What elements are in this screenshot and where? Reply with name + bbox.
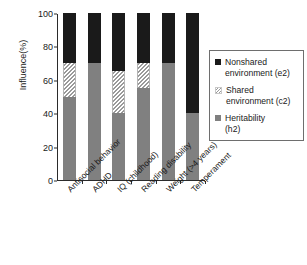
bar-segment-e2 — [88, 13, 101, 63]
legend-item-shared: Shared environment (c2) — [215, 85, 299, 106]
legend-line-2: environment (e2) — [225, 68, 290, 78]
y-tick-label: 40 — [43, 109, 53, 119]
bar-segment-c2 — [137, 63, 150, 88]
legend: Nonshared environment (e2) Shared enviro… — [209, 50, 304, 141]
legend-line-2: (h2) — [225, 124, 240, 134]
y-axis-line — [57, 14, 58, 181]
gray-square-icon — [215, 115, 221, 121]
legend-line-1: Heritability — [225, 113, 265, 123]
y-tick-mark — [54, 80, 57, 81]
legend-item-shared-label: Shared environment (c2) — [226, 85, 290, 106]
y-tick-mark — [54, 181, 57, 182]
y-tick-mark — [54, 114, 57, 115]
y-tick-label: 20 — [43, 143, 53, 153]
y-tick-label: 0 — [48, 176, 53, 186]
legend-item-heritability: Heritability (h2) — [215, 113, 299, 134]
bar-segment-e2 — [137, 13, 150, 63]
y-tick-mark — [54, 47, 57, 48]
bar-segment-e2 — [186, 13, 199, 113]
legend-line-1: Shared — [226, 85, 254, 95]
y-tick-label: 80 — [43, 42, 53, 52]
bar-segment-e2 — [162, 13, 175, 63]
bar-stack — [112, 13, 125, 180]
legend-item-nonshared: Nonshared environment (e2) — [215, 57, 299, 78]
bar-segment-e2 — [112, 13, 125, 71]
bar-segment-c2 — [112, 71, 125, 113]
bar-segment-c2 — [63, 63, 76, 96]
chart-figure: Influence(%) 020406080100 Antisocial beh… — [0, 0, 307, 265]
legend-item-nonshared-label: Nonshared environment (e2) — [225, 57, 290, 78]
y-tick-mark — [54, 14, 57, 15]
bar-segment-e2 — [63, 13, 76, 63]
legend-item-heritability-label: Heritability (h2) — [225, 113, 265, 134]
y-tick-label: 100 — [38, 9, 53, 19]
legend-line-2: environment (c2) — [226, 96, 290, 106]
hatched-square-icon — [215, 87, 222, 94]
y-tick-mark — [54, 147, 57, 148]
legend-line-1: Nonshared — [225, 57, 267, 67]
bar-segment-h2 — [63, 97, 76, 181]
black-square-icon — [215, 59, 221, 65]
y-tick-label: 60 — [43, 76, 53, 86]
bar-stack — [63, 13, 76, 180]
y-axis-title: Influence(%) — [18, 20, 28, 110]
